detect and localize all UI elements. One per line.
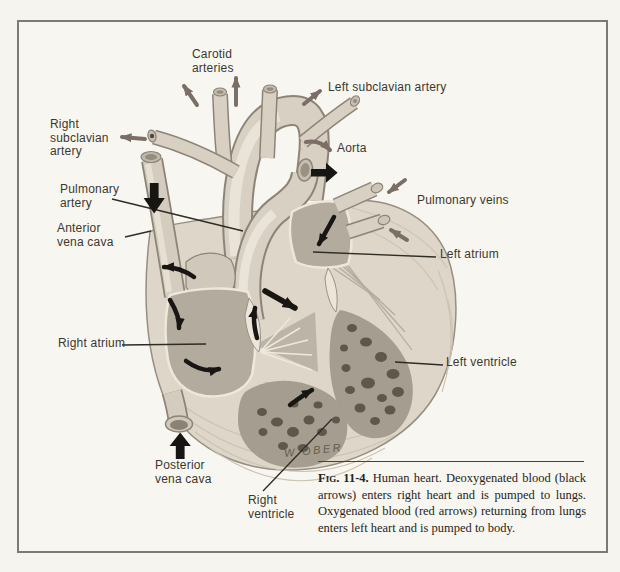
label-right-atrium: Right atrium <box>58 337 125 351</box>
label-pulmonary-artery: Pulmonary artery <box>60 183 119 210</box>
caption-text: Fig. 11-4. Human heart. Deoxygenated blo… <box>318 470 586 536</box>
label-carotid-arteries: Carotid arteries <box>192 48 234 75</box>
label-right-subclavian-artery: Right subclavian artery <box>50 118 109 159</box>
label-left-ventricle: Left ventricle <box>446 356 517 370</box>
label-aorta: Aorta <box>337 142 367 156</box>
label-left-atrium: Left atrium <box>440 248 499 262</box>
right-atrium-chamber <box>166 288 256 396</box>
label-pulmonary-veins: Pulmonary veins <box>417 194 509 208</box>
page: Carotid arteries Left subclavian artery … <box>0 0 620 572</box>
figure-caption: Fig. 11-4. Human heart. Deoxygenated blo… <box>318 461 586 536</box>
label-posterior-vena-cava: Posterior vena cava <box>155 459 212 486</box>
caption-rule <box>318 461 584 462</box>
label-anterior-vena-cava: Anterior vena cava <box>57 222 114 249</box>
label-right-ventricle: Right ventricle <box>248 494 294 521</box>
label-left-subclavian-artery: Left subclavian artery <box>328 81 446 95</box>
caption-figure-number: Fig. 11-4. <box>318 471 369 485</box>
